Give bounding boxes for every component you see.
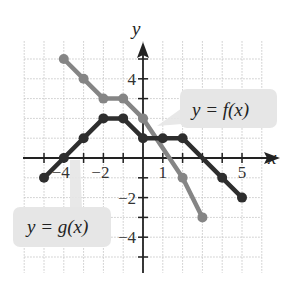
x-tick-label: 1 [159,163,168,182]
data-point-g [138,133,148,143]
y-tick-label: −4 [118,228,137,247]
data-point-g [158,133,168,143]
data-point-g [178,133,188,143]
coordinate-plane: x y −4−2154−2−4 y = f(x) y = g(x) [0,0,292,282]
y-axis-label: y [130,18,141,39]
data-point-g [237,193,247,203]
data-point-f [118,94,128,104]
data-point-f [178,173,188,183]
data-point-g [79,133,89,143]
f-callout-pointer [157,108,182,126]
data-point-f [79,74,89,84]
g-callout-pointer [70,160,82,209]
f-callout: y = f(x) [157,89,277,128]
y-tick-label: 4 [128,70,137,89]
x-tick-label: −2 [91,163,109,182]
data-point-f [197,212,207,222]
x-axis-label: x [267,147,277,168]
data-point-f [138,113,148,123]
f-callout-text: y = f(x) [190,99,249,121]
g-callout-text: y = g(x) [25,216,88,238]
data-point-g [59,153,69,163]
data-point-g [118,113,128,123]
data-point-g [98,113,108,123]
data-point-f [59,54,69,64]
data-point-f [98,94,108,104]
y-tick-label: −2 [118,189,136,208]
data-point-g [39,173,49,183]
data-point-g [217,173,227,183]
x-tick-label: 5 [238,163,247,182]
